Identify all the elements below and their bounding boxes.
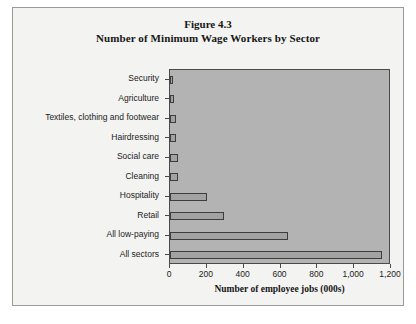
bar-row [170, 129, 176, 149]
bar-row [170, 246, 382, 266]
y-axis-tick [165, 157, 169, 158]
x-axis-tick [169, 264, 170, 268]
bar-row [170, 70, 173, 90]
y-axis-tick [165, 176, 169, 177]
y-axis-tick [165, 98, 169, 99]
x-axis-tick-label: 1,000 [343, 269, 364, 279]
x-axis-tick-marks [169, 264, 390, 268]
bar-row [170, 90, 174, 110]
y-axis-tick [165, 215, 169, 216]
bar [170, 154, 178, 162]
bar [170, 134, 176, 142]
figure-frame: Figure 4.3 Number of Minimum Wage Worker… [12, 7, 404, 306]
bar [170, 115, 176, 123]
y-axis-label: Retail [137, 206, 159, 226]
bar [170, 232, 288, 240]
bar [170, 193, 207, 201]
x-axis-tick [243, 264, 244, 268]
plot-area [169, 69, 390, 264]
bar [170, 251, 382, 259]
y-axis-tick [165, 235, 169, 236]
x-axis-tick-label: 400 [236, 269, 250, 279]
y-axis-tick [165, 196, 169, 197]
x-axis-tick [353, 264, 354, 268]
x-axis-tick-label: 600 [272, 269, 286, 279]
x-axis-tick-label: 200 [199, 269, 213, 279]
x-axis-tick-label: 1,200 [379, 269, 400, 279]
y-axis-label: Hospitality [120, 186, 159, 206]
figure-number: Figure 4.3 [13, 17, 403, 31]
y-axis-label: Textiles, clothing and footwear [45, 108, 159, 128]
y-axis-tick [165, 137, 169, 138]
bar [170, 76, 173, 84]
bar-row [170, 187, 207, 207]
bar [170, 95, 174, 103]
bar [170, 212, 224, 220]
y-axis-label: All low-paying [107, 225, 159, 245]
x-axis-tick [206, 264, 207, 268]
bar-row [170, 168, 178, 188]
x-axis-tick [390, 264, 391, 268]
bars-layer [170, 70, 389, 263]
bar-row [170, 148, 178, 168]
y-axis-tick [165, 118, 169, 119]
y-axis-label: Social care [117, 147, 159, 167]
y-axis-tick [165, 79, 169, 80]
y-axis-label: All sectors [120, 245, 159, 265]
y-axis-label: Hairdressing [111, 128, 159, 148]
figure-title-block: Figure 4.3 Number of Minimum Wage Worker… [13, 17, 403, 45]
y-axis-label: Cleaning [125, 167, 159, 187]
figure-title: Number of Minimum Wage Workers by Sector [13, 31, 403, 45]
bar-row [170, 207, 224, 227]
y-axis-category-labels: SecurityAgricultureTextiles, clothing an… [13, 69, 165, 264]
bar [170, 173, 178, 181]
bar-row [170, 226, 288, 246]
x-axis-title: Number of employee jobs (000s) [169, 284, 390, 294]
bar-row [170, 109, 176, 129]
x-axis-tick-label: 0 [167, 269, 172, 279]
x-axis-tick [280, 264, 281, 268]
y-axis-label: Agriculture [118, 89, 159, 109]
x-axis-tick-label: 800 [309, 269, 323, 279]
y-axis-tick [165, 254, 169, 255]
y-axis-label: Security [128, 69, 159, 89]
x-axis-tick-labels: 02004006008001,0001,200 [169, 269, 390, 281]
x-axis-tick [316, 264, 317, 268]
